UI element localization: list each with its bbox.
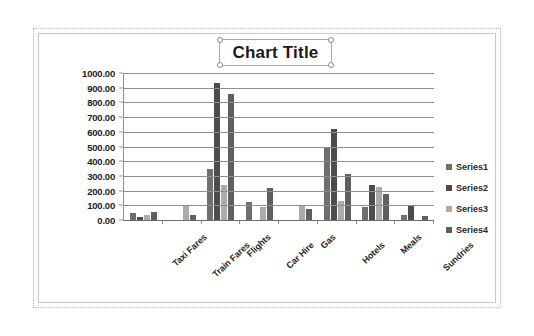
legend-item[interactable]: Series1 (446, 156, 504, 177)
x-axis-category-label: Meals (399, 232, 424, 256)
bar-series3-train-fares[interactable] (183, 205, 189, 220)
gridline (124, 102, 434, 103)
bar-series1-hotels[interactable] (324, 147, 330, 221)
gridline (124, 88, 434, 89)
legend-item[interactable]: Series4 (446, 219, 504, 240)
chart-legend[interactable]: Series1Series2Series3Series4 (446, 156, 504, 240)
legend-swatch-icon (446, 206, 452, 212)
gridline (124, 191, 434, 192)
bar-series3-meals[interactable] (376, 187, 382, 220)
resize-handle-bottom-left[interactable] (31, 305, 38, 310)
bar-series4-hotels[interactable] (345, 174, 351, 220)
bar-series3-car-hire[interactable] (260, 207, 266, 220)
gridline (124, 205, 434, 206)
legend-swatch-icon (446, 227, 452, 233)
y-axis-tick-label: 900.00 (87, 82, 115, 93)
bar-series2-hotels[interactable] (331, 129, 337, 220)
chart-object[interactable]: Chart Title 1000.00900.00800.00700.00600… (33, 28, 501, 308)
legend-swatch-icon (446, 164, 452, 170)
title-handle-bottom-left[interactable] (217, 62, 223, 68)
bar-series3-hotels[interactable] (338, 201, 344, 220)
bar-series2-sundries[interactable] (408, 205, 414, 220)
legend-label: Series3 (456, 204, 488, 214)
bar-series1-taxi-fares[interactable] (130, 213, 136, 220)
y-axis-tick-label: 400.00 (87, 156, 115, 167)
resize-handle-top-left[interactable] (31, 26, 38, 31)
y-axis-tick-label: 700.00 (87, 112, 115, 123)
y-axis-tick-label: 600.00 (87, 126, 115, 137)
legend-label: Series1 (456, 162, 488, 172)
gridline (124, 117, 434, 118)
bar-series4-gas[interactable] (306, 209, 312, 220)
title-handle-top-right[interactable] (328, 37, 334, 43)
x-axis-category-label: Taxi Fares (170, 232, 208, 269)
x-axis-category-label: Gas (319, 232, 338, 251)
x-axis-category-label: Hotels (360, 240, 386, 266)
bar-series4-meals[interactable] (383, 194, 389, 220)
bar-series3-gas[interactable] (299, 205, 305, 220)
plot-canvas[interactable] (123, 73, 434, 221)
x-axis-labels: Taxi FaresTrain FaresFlightsCar HireGasH… (123, 228, 434, 288)
bar-series4-car-hire[interactable] (267, 188, 273, 220)
legend-item[interactable]: Series2 (446, 177, 504, 198)
legend-swatch-icon (446, 185, 452, 191)
resize-handle-top-right[interactable] (496, 26, 503, 31)
y-axis-tick-label: 200.00 (87, 185, 115, 196)
bar-series4-taxi-fares[interactable] (151, 212, 157, 220)
chart-title-box[interactable]: Chart Title (219, 39, 332, 66)
gridline (124, 161, 434, 162)
gridline (124, 73, 434, 74)
bar-series2-flights[interactable] (214, 83, 220, 220)
page-title: Chart Title (233, 43, 319, 63)
gridline (124, 176, 434, 177)
title-handle-top-left[interactable] (217, 37, 223, 43)
x-axis-line (124, 220, 434, 221)
legend-label: Series2 (456, 183, 488, 193)
legend-label: Series4 (456, 225, 488, 235)
bar-series4-flights[interactable] (228, 94, 234, 220)
y-axis-tick-label: 800.00 (87, 97, 115, 108)
y-axis-tick-label: 500.00 (87, 141, 115, 152)
bar-series1-meals[interactable] (362, 207, 368, 220)
x-axis-category-label: Car Hire (285, 240, 317, 271)
legend-item[interactable]: Series3 (446, 198, 504, 219)
resize-handle-bottom-center[interactable] (262, 305, 273, 310)
title-handle-bottom-right[interactable] (328, 62, 334, 68)
y-axis-tick-label: 300.00 (87, 170, 115, 181)
resize-handle-top-center[interactable] (262, 26, 273, 31)
y-axis-tick-label: 0.00 (97, 215, 115, 226)
y-axis-tick-label: 1000.00 (82, 68, 115, 79)
y-axis-tick-label: 100.00 (87, 200, 115, 211)
resize-handle-bottom-right[interactable] (496, 305, 503, 310)
y-axis: 1000.00900.00800.00700.00600.00500.00400… (57, 73, 119, 221)
resize-handle-middle-left[interactable] (31, 163, 36, 174)
plot-area[interactable]: 1000.00900.00800.00700.00600.00500.00400… (57, 73, 442, 233)
gridline (124, 147, 434, 148)
gridline (124, 132, 434, 133)
x-axis-category-label: Train Fares (210, 240, 251, 279)
